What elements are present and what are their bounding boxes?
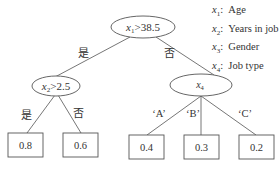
legend-row-x3: x3: Gender — [212, 40, 279, 59]
legend-row-x1: x1: Age — [212, 3, 279, 22]
legend-row-x2: x2: Years in job — [212, 22, 279, 41]
edge-label-right-c: ‘C’ — [238, 108, 252, 119]
edge-label-right-b: ‘B’ — [186, 108, 200, 119]
left-node-label: x2>2.5 — [41, 80, 71, 94]
edge-label-root-yes: 是 — [78, 47, 89, 59]
leaf-value-2: 0.6 — [74, 140, 87, 151]
edge-root-left — [55, 37, 130, 77]
root-node-label: x1>38.5 — [125, 21, 160, 35]
leaf-value-1: 0.8 — [19, 140, 32, 151]
edge-label-left-yes: 是 — [21, 109, 32, 121]
legend-row-x4: x4: Job type — [212, 59, 279, 78]
leaf-value-3: 0.4 — [140, 142, 154, 153]
edge-label-left-no: 否 — [73, 107, 84, 119]
variable-legend: x1: Age x2: Years in job x3: Gender x4: … — [212, 3, 279, 78]
edge-label-right-a: ‘A’ — [152, 108, 165, 119]
leaf-value-5: 0.2 — [250, 142, 263, 153]
leaf-value-4: 0.3 — [195, 142, 208, 153]
edge-label-root-no: 否 — [164, 47, 175, 59]
